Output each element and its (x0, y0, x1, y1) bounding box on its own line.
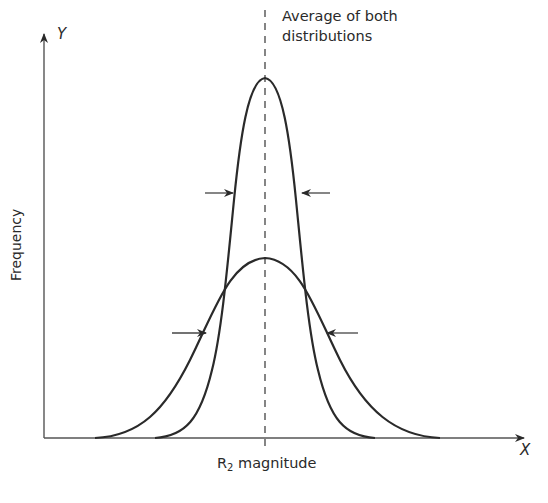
x-label-rest: magnitude (233, 455, 316, 471)
annotation-line-1: Average of both (282, 6, 398, 26)
average-annotation: Average of both distributions (282, 6, 398, 46)
annotation-line-2: distributions (282, 26, 398, 46)
x-label-main: R (217, 455, 227, 471)
diagram: Average of both distributions Y X Freque… (0, 0, 548, 503)
x-axis-label: R2 magnitude (217, 455, 317, 473)
diagram-canvas (0, 0, 548, 503)
y-axis-label: Frequency (8, 209, 24, 281)
y-axis-letter: Y (57, 25, 66, 43)
x-axis-letter: X (520, 441, 530, 459)
wide-distribution-curve (95, 258, 440, 438)
